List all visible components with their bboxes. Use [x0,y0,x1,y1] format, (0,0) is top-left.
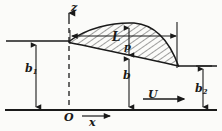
mid-gap-label: b [123,70,131,81]
camber-height-label: p [124,42,131,52]
z-axis-label: z [71,2,77,13]
chord-length-label: L [112,31,120,43]
x-axis-label: x [89,117,96,128]
lower-gap-label-base: b [195,82,203,95]
lower-gap-label: b2 [195,83,207,96]
figure-container: z L p b1 b b2 U O x [0,0,222,131]
upper-gap-label-base: b [25,62,33,75]
origin-label: O [64,112,74,123]
lower-gap-label-subscript: 2 [203,88,208,96]
velocity-label: U [148,89,158,100]
upper-gap-label-subscript: 1 [33,68,38,76]
upper-gap-label: b1 [25,63,37,76]
